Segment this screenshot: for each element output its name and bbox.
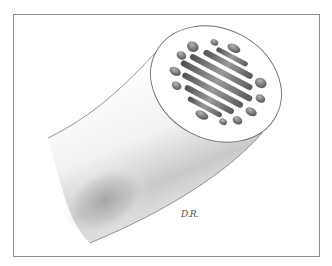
fiber-illustration xyxy=(0,0,332,266)
artist-signature: D.R. xyxy=(181,209,198,219)
